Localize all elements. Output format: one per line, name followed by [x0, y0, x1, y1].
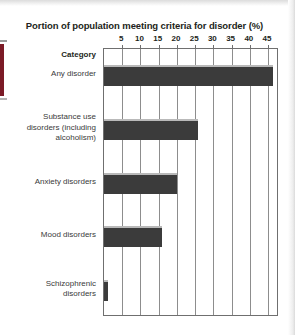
page-top-edge-shading	[0, 0, 295, 6]
gridline	[195, 49, 196, 315]
chart-page: Portion of population meeting criteria f…	[0, 0, 295, 335]
gridline	[232, 49, 233, 315]
x-axis-tick-mark	[232, 45, 233, 49]
x-axis-tick-mark	[177, 45, 178, 49]
x-axis-tick-label: 20	[171, 34, 180, 43]
x-axis-tick-label: 5	[119, 34, 123, 43]
x-axis-tick-label: 15	[153, 34, 162, 43]
x-axis-tick-label: 40	[244, 34, 253, 43]
x-axis-tick-label: 25	[190, 34, 199, 43]
x-axis-tick-label: 35	[226, 34, 235, 43]
x-axis-tick-mark	[268, 45, 269, 49]
x-axis-tick-mark	[140, 45, 141, 49]
page-spine-tick-upper	[0, 40, 7, 42]
x-axis-tick-mark	[213, 45, 214, 49]
gridline	[213, 49, 214, 315]
category-label: Any disorder	[6, 69, 96, 80]
bar	[104, 226, 162, 247]
x-axis-tick-mark	[159, 45, 160, 49]
category-axis-header: Category	[6, 50, 96, 59]
page-spine-strip	[0, 44, 4, 96]
x-axis-tick-label: 10	[135, 34, 144, 43]
category-label: Substance use disorders (including alcoh…	[6, 112, 96, 144]
gridline	[268, 49, 269, 315]
category-label: Mood disorders	[6, 230, 96, 241]
x-axis-tick-mark	[195, 45, 196, 49]
gridline	[177, 49, 178, 315]
bar	[104, 173, 177, 194]
x-axis-tick-label: 45	[263, 34, 272, 43]
bar	[104, 65, 273, 86]
category-label: Schizophrenic disorders	[6, 279, 96, 300]
plot-area	[103, 48, 278, 316]
page-spine-tick-lower	[0, 98, 7, 100]
x-axis-tick-mark	[250, 45, 251, 49]
category-label: Anxiety disorders	[6, 177, 96, 188]
gridline	[250, 49, 251, 315]
page-right-edge-shading	[288, 0, 295, 335]
bar	[104, 280, 108, 301]
x-axis-tick-label: 30	[208, 34, 217, 43]
bar	[104, 119, 198, 140]
chart-title: Portion of population meeting criteria f…	[0, 20, 289, 31]
x-axis-tick-mark	[122, 45, 123, 49]
